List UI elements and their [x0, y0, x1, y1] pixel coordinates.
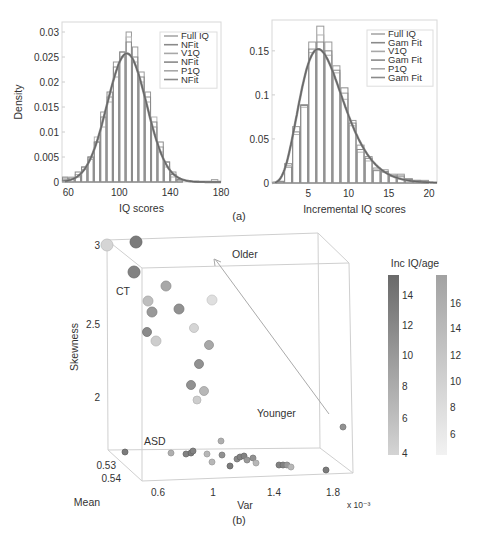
annotation-younger: Younger [257, 407, 296, 419]
x-tick-label: 1.8 [326, 487, 340, 498]
y-tick-label: 0.025 [34, 52, 59, 63]
box-edge [107, 240, 108, 450]
data-point [288, 464, 294, 470]
box-edge [349, 263, 353, 473]
scatter-series [101, 236, 217, 404]
legend: Full IQGam FitV1QGam FitP1QGam Fit [367, 28, 433, 86]
colorbar-tick: 6 [402, 413, 408, 424]
y-tick-label: 0.1 [255, 90, 269, 101]
age-arrow [215, 259, 329, 414]
legend: Full IQNFitV1QNFitP1QNFit [160, 30, 217, 88]
figure-canvas: 00.0050.010.0150.020.0250.0360100140180I… [0, 0, 477, 546]
z-axis-label: Skewness [68, 323, 80, 371]
annotation-older: Older [232, 248, 258, 260]
y-tick-label: 0.05 [250, 134, 270, 145]
data-point [218, 438, 224, 444]
y-tick-label: 0 [263, 178, 269, 189]
x-tick-label: 20 [423, 188, 435, 199]
z-tick-label: 3 [94, 240, 100, 251]
caption-b: (b) [232, 514, 245, 526]
colorbar-tick: 8 [402, 381, 408, 392]
colorbar-tick: 6 [450, 429, 456, 440]
y-axis-label: Density [12, 84, 24, 120]
data-point [101, 239, 113, 251]
y-tick-label: 0.54 [102, 473, 122, 484]
data-point [193, 396, 201, 404]
x-tick-label: 10 [343, 188, 355, 199]
colorbar-tick: 8 [450, 402, 456, 413]
data-point [151, 336, 161, 346]
x-tick-label: 5 [305, 188, 311, 199]
annotation-ct: CT [116, 285, 131, 297]
z-tick-label: 2.5 [86, 319, 100, 330]
data-point [253, 460, 259, 466]
chart-3d-scatter: OlderYoungerCTASD22.53Skewness0.530.54Me… [68, 233, 371, 511]
x-axis-label: IQ scores [119, 202, 164, 214]
legend-item: Gam Fit [388, 72, 422, 83]
x-tick-label: 140 [162, 187, 179, 198]
data-point [195, 360, 204, 369]
data-point [187, 381, 196, 390]
x-tick-label: 180 [213, 187, 230, 198]
caption-a: (a) [232, 210, 245, 222]
data-point [200, 387, 209, 396]
box-edge [318, 233, 320, 448]
data-point [122, 449, 128, 455]
x-tick-label: 1.4 [267, 487, 281, 498]
y-axis-label: Mean [74, 496, 100, 508]
x-tick-label: 100 [111, 187, 128, 198]
chart-iq-histogram: 00.0050.010.0150.020.0250.0360100140180I… [12, 22, 230, 214]
data-point [147, 307, 157, 317]
x-multiplier-label: x 10⁻³ [347, 500, 371, 510]
x-axis-label: Var [237, 499, 253, 511]
data-point [130, 236, 142, 248]
colorbar-tick: 10 [450, 376, 462, 387]
z-tick-label: 2 [94, 392, 100, 403]
data-point [190, 448, 196, 454]
data-point [340, 424, 346, 430]
colorbar-tick: 14 [402, 290, 414, 301]
data-point [204, 451, 210, 457]
colorbar-tick: 12 [402, 320, 414, 331]
data-point [323, 467, 329, 473]
data-point [174, 304, 184, 314]
y-tick-label: 0.005 [34, 152, 59, 163]
colorbar-tick: 14 [450, 323, 462, 334]
data-point [143, 328, 152, 337]
colorbar-group: Inc IQ/age1412108641614121086 [388, 257, 462, 459]
box-edge [318, 233, 349, 263]
data-point [128, 266, 140, 278]
legend-item: NFit [181, 74, 199, 85]
x-tick-label: 0.6 [151, 487, 165, 498]
data-point [205, 341, 214, 350]
data-point [143, 296, 153, 306]
data-point [227, 463, 233, 469]
y-tick-label: 0.015 [34, 102, 59, 113]
colorbar-tick: 12 [450, 350, 462, 361]
chart-incremental-iq-histogram: 00.050.10.155101520Incremental IQ scores… [250, 20, 437, 215]
box-edge [108, 448, 320, 450]
y-tick-label: 0.01 [40, 127, 60, 138]
y-tick-label: 0.15 [250, 46, 270, 57]
annotation-asd: ASD [144, 435, 166, 447]
x-tick-label: 1 [210, 487, 216, 498]
x-tick-label: 60 [63, 187, 75, 198]
x-axis-label: Incremental IQ scores [303, 203, 406, 215]
colorbar-tick: 16 [450, 298, 462, 309]
data-point [219, 452, 225, 458]
y-tick-label: 0.03 [40, 27, 60, 38]
y-tick-label: 0.53 [97, 460, 117, 471]
data-point [161, 281, 171, 291]
data-point [209, 459, 215, 465]
colorbar-right [436, 275, 447, 455]
x-tick-label: 15 [383, 188, 395, 199]
box-edge [142, 473, 353, 481]
data-point [244, 457, 250, 463]
data-point [207, 295, 217, 305]
data-point [168, 450, 174, 456]
colorbar-left [388, 275, 399, 455]
colorbar-tick: 4 [402, 448, 408, 459]
y-tick-label: 0 [53, 177, 59, 188]
colorbar-title: Inc IQ/age [391, 257, 440, 269]
data-point [190, 324, 199, 333]
